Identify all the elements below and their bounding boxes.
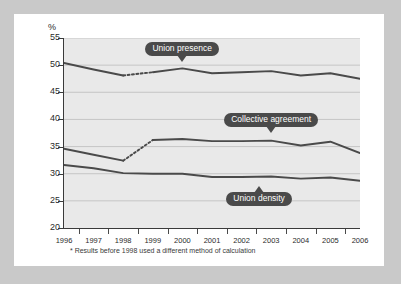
callout-pointer xyxy=(177,55,187,62)
x-tick-label: 1998 xyxy=(108,236,138,245)
x-tick-mark xyxy=(256,229,257,234)
x-tick-mark xyxy=(138,229,139,234)
x-tick-label: 2006 xyxy=(345,236,375,245)
x-tick-label: 2001 xyxy=(197,236,227,245)
series-line xyxy=(153,139,360,153)
x-tick-label: 2003 xyxy=(256,236,286,245)
callout-label: Collective agreement xyxy=(231,114,311,124)
chart-footnote: * Results before 1998 used a different m… xyxy=(70,247,256,254)
x-tick-mark xyxy=(79,229,80,234)
y-tick-label: 45 xyxy=(20,87,60,96)
x-tick-mark xyxy=(227,229,228,234)
callout-pointer xyxy=(266,126,276,133)
x-tick-label: 1996 xyxy=(49,236,79,245)
y-axis-tick-labels: 2025303540455055 xyxy=(14,14,60,266)
y-tick-label: 40 xyxy=(20,114,60,123)
y-tick-label: 35 xyxy=(20,142,60,151)
x-tick-mark xyxy=(286,229,287,234)
callout-pointer xyxy=(254,186,264,193)
x-tick-label: 2000 xyxy=(167,236,197,245)
callout-union-presence: Union presence xyxy=(145,42,219,56)
y-tick-label: 25 xyxy=(20,196,60,205)
chart-series-svg xyxy=(64,38,360,228)
x-tick-mark xyxy=(316,229,317,234)
series-line-estimated xyxy=(123,72,153,75)
y-tick-label: 55 xyxy=(20,33,60,42)
x-tick-mark xyxy=(108,229,109,234)
plot-area xyxy=(64,38,360,228)
y-tick-label: 50 xyxy=(20,60,60,69)
series-line xyxy=(153,68,360,78)
callout-collective-agreement: Collective agreement xyxy=(224,113,318,127)
callout-union-density: Union density xyxy=(226,192,292,206)
x-tick-mark xyxy=(168,229,169,234)
y-tick-label: 20 xyxy=(20,223,60,232)
series-line xyxy=(64,165,360,181)
series-union-density xyxy=(64,165,360,181)
x-tick-mark xyxy=(197,229,198,234)
callout-label: Union density xyxy=(233,193,285,203)
x-tick-label: 1997 xyxy=(79,236,109,245)
x-tick-label: 2004 xyxy=(286,236,316,245)
x-tick-label: 2002 xyxy=(227,236,257,245)
callout-label: Union presence xyxy=(152,43,212,53)
chart-figure: % 2025303540455055 199619971998199920002… xyxy=(14,14,384,266)
x-tick-mark xyxy=(345,229,346,234)
series-line xyxy=(64,149,123,161)
x-tick-label: 1999 xyxy=(138,236,168,245)
y-tick-label: 30 xyxy=(20,169,60,178)
x-tick-label: 2005 xyxy=(315,236,345,245)
series-collective-agreement xyxy=(64,139,360,161)
series-line-estimated xyxy=(123,140,153,161)
